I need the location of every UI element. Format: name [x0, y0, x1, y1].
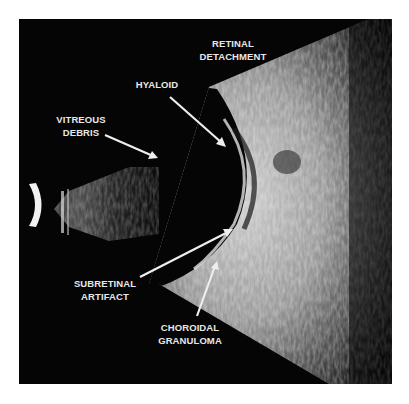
label-line: CHOROIDAL: [158, 322, 222, 335]
label-line: DETACHMENT: [200, 51, 267, 64]
ultrasound-image-frame: RETINAL DETACHMENT HYALOID VITREOUS DEBR…: [19, 19, 392, 384]
label-line: GRANULOMA: [158, 335, 222, 348]
label-vitreous-debris: VITREOUS DEBRIS: [56, 114, 105, 139]
label-hyaloid: HYALOID: [136, 79, 179, 92]
probe-arc: [29, 183, 42, 227]
label-line: RETINAL: [200, 38, 267, 51]
label-line: DEBRIS: [56, 127, 105, 140]
label-choroidal-granuloma: CHOROIDAL GRANULOMA: [158, 322, 222, 347]
label-line: SUBRETINAL: [74, 278, 136, 291]
label-retinal-detachment: RETINAL DETACHMENT: [200, 38, 267, 63]
near-field-sector: [54, 167, 159, 241]
label-subretinal-artifact: SUBRETINAL ARTIFACT: [74, 278, 136, 303]
label-line: HYALOID: [136, 79, 179, 92]
label-line: VITREOUS: [56, 114, 105, 127]
vitreous-debris-arrow: [105, 135, 153, 156]
label-line: ARTIFACT: [74, 291, 136, 304]
